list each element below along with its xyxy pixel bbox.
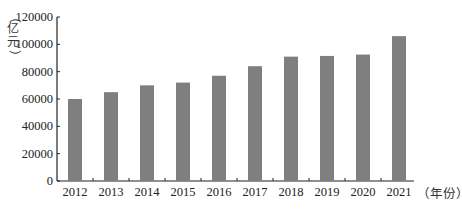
x-tick-label: 2019 [315, 185, 340, 199]
x-tick-label: 2012 [63, 185, 88, 199]
chart-canvas: 0200004000060000800001000001200002012201… [0, 0, 462, 213]
y-label-paren-close: ） [7, 49, 20, 63]
y-tick-label: 0 [47, 174, 53, 188]
y-tick-label: 100000 [16, 37, 54, 51]
y-axis-label: （ 亿 元 ） [6, 10, 20, 62]
bar-2012 [68, 99, 82, 181]
bar-2021 [392, 36, 406, 181]
y-tick-label: 20000 [22, 147, 53, 161]
x-tick-label: 2013 [99, 185, 124, 199]
y-tick-label: 60000 [22, 92, 53, 106]
y-label-char-2: 元 [6, 36, 20, 49]
x-tick-label: 2014 [135, 185, 161, 199]
bar-2020 [356, 55, 370, 181]
y-tick-label: 40000 [22, 119, 53, 133]
x-tick-label: 2020 [351, 185, 376, 199]
bar-chart: 0200004000060000800001000001200002012201… [0, 0, 462, 213]
bar-2019 [320, 56, 334, 181]
bar-2014 [140, 85, 154, 181]
bar-2018 [284, 57, 298, 181]
x-tick-label: 2017 [243, 185, 268, 199]
x-tick-label: 2016 [207, 185, 232, 199]
bar-2013 [104, 92, 118, 181]
bar-2016 [212, 76, 226, 181]
y-tick-label: 120000 [16, 10, 54, 24]
x-tick-label: 2021 [387, 185, 412, 199]
bar-2015 [176, 83, 190, 181]
y-tick-label: 80000 [22, 65, 53, 79]
x-tick-label: 2018 [279, 185, 304, 199]
bar-2017 [248, 66, 262, 181]
x-tick-label: 2015 [171, 185, 196, 199]
x-axis-label: （年份） [417, 183, 462, 202]
y-label-paren-open: （ [7, 10, 20, 24]
